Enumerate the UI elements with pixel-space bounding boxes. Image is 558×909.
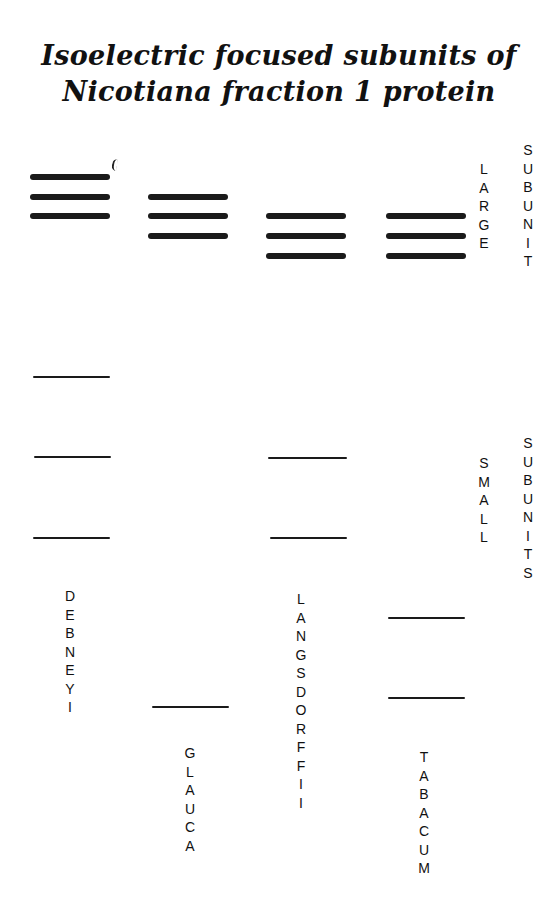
letter: F <box>291 757 311 776</box>
lane-label-debneyi: DEBNEYI <box>60 587 80 717</box>
letter: U <box>518 160 538 179</box>
band <box>30 174 110 180</box>
letter: M <box>414 859 434 878</box>
letter: E <box>474 234 494 253</box>
letter: M <box>474 473 494 492</box>
letter: F <box>291 738 311 757</box>
band <box>148 213 228 219</box>
band <box>33 537 110 539</box>
letter: I <box>291 794 311 813</box>
band <box>30 213 110 219</box>
letter: A <box>474 491 494 510</box>
label-large: LARGE <box>474 160 494 253</box>
letter: T <box>518 545 538 564</box>
label-small: SMALL <box>474 454 494 547</box>
letter: N <box>60 643 80 662</box>
letter: R <box>291 720 311 739</box>
letter: N <box>518 215 538 234</box>
band <box>33 376 110 378</box>
letter: A <box>474 179 494 198</box>
letter: G <box>180 744 200 763</box>
letter: T <box>414 748 434 767</box>
tick-mark-icon <box>111 159 118 172</box>
band <box>386 253 466 259</box>
band <box>148 194 228 200</box>
letter: S <box>518 141 538 160</box>
band <box>386 233 466 239</box>
letter: A <box>414 767 434 786</box>
letter: R <box>474 197 494 216</box>
band <box>152 706 229 708</box>
title-line-2: Nicotiana fraction 1 protein <box>0 74 558 110</box>
letter: L <box>474 528 494 547</box>
letter: T <box>518 252 538 271</box>
letter: I <box>518 527 538 546</box>
letter: I <box>518 234 538 253</box>
band <box>268 457 347 459</box>
letter: Y <box>60 680 80 699</box>
letter: L <box>474 160 494 179</box>
band <box>148 233 228 239</box>
band <box>266 233 346 239</box>
letter: U <box>518 197 538 216</box>
letter: L <box>291 590 311 609</box>
letter: S <box>518 564 538 583</box>
letter: U <box>414 841 434 860</box>
band <box>386 213 466 219</box>
letter: B <box>518 471 538 490</box>
letter: U <box>518 453 538 472</box>
letter: G <box>291 646 311 665</box>
page-title: Isoelectric focused subunits of Nicotian… <box>0 38 558 110</box>
letter: G <box>474 216 494 235</box>
letter: S <box>291 664 311 683</box>
letter: A <box>180 781 200 800</box>
letter: I <box>60 698 80 717</box>
band <box>388 697 465 699</box>
letter: S <box>518 434 538 453</box>
letter: N <box>518 508 538 527</box>
band <box>266 213 346 219</box>
letter: B <box>518 178 538 197</box>
letter: B <box>60 624 80 643</box>
label-subunit: SUBUNIT <box>518 141 538 271</box>
title-line-1: Isoelectric focused subunits of <box>0 38 558 74</box>
letter: U <box>180 800 200 819</box>
letter: I <box>291 775 311 794</box>
letter: A <box>414 804 434 823</box>
letter: N <box>291 627 311 646</box>
letter: C <box>414 822 434 841</box>
band <box>270 537 347 539</box>
letter: B <box>414 785 434 804</box>
letter: D <box>60 587 80 606</box>
letter: S <box>474 454 494 473</box>
band <box>388 617 465 619</box>
band <box>30 194 110 200</box>
lane-label-glauca: GLAUCA <box>180 744 200 855</box>
letter: U <box>518 490 538 509</box>
label-subunits: SUBUNITS <box>518 434 538 582</box>
lane-label-langsdorffii: LANGSDORFFII <box>291 590 311 812</box>
letter: D <box>291 683 311 702</box>
letter: E <box>60 606 80 625</box>
lane-label-tabacum: TABACUM <box>414 748 434 878</box>
letter: L <box>474 510 494 529</box>
letter: A <box>180 837 200 856</box>
letter: E <box>60 661 80 680</box>
letter: L <box>180 763 200 782</box>
band <box>266 253 346 259</box>
letter: A <box>291 609 311 628</box>
letter: O <box>291 701 311 720</box>
band <box>34 456 111 458</box>
letter: C <box>180 818 200 837</box>
